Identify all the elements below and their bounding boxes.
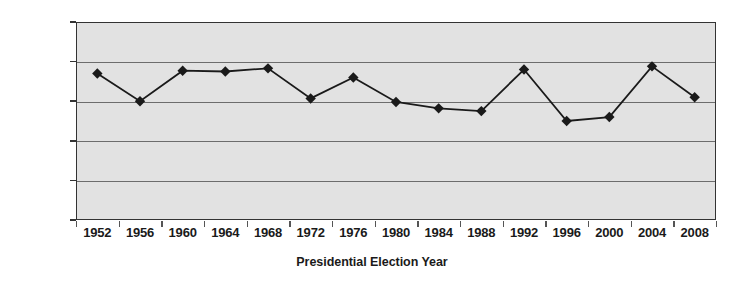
series-line: [97, 66, 694, 121]
data-point-1952: [92, 68, 102, 78]
x-axis-title: Presidential Election Year: [0, 255, 744, 269]
x-tick-mark-8: [417, 221, 418, 227]
data-series: [76, 22, 716, 220]
x-tick-mark-1: [119, 221, 120, 227]
x-tick-mark-4: [247, 221, 248, 227]
x-tick-mark-2: [161, 221, 162, 227]
data-point-1980: [391, 97, 401, 107]
x-tick-mark-6: [332, 221, 333, 227]
x-tick-mark-5: [289, 221, 290, 227]
x-tick-mark-3: [204, 221, 205, 227]
series-markers: [92, 61, 700, 126]
data-point-1984: [433, 103, 443, 113]
data-point-1976: [348, 72, 358, 82]
x-tick-mark-13: [631, 221, 632, 227]
x-tick-label-2008: 2008: [665, 226, 725, 239]
x-tick-mark-10: [503, 221, 504, 227]
x-tick-mark-9: [460, 221, 461, 227]
x-tick-mark-7: [375, 221, 376, 227]
x-tick-mark-end: [716, 221, 717, 227]
x-tick-mark-11: [545, 221, 546, 227]
chart-figure: Percentage reporting “very much interest…: [0, 0, 744, 282]
data-point-1964: [220, 66, 230, 76]
x-tick-mark-14: [673, 221, 674, 227]
x-tick-mark-12: [588, 221, 589, 227]
x-tick-mark-0: [76, 221, 77, 227]
